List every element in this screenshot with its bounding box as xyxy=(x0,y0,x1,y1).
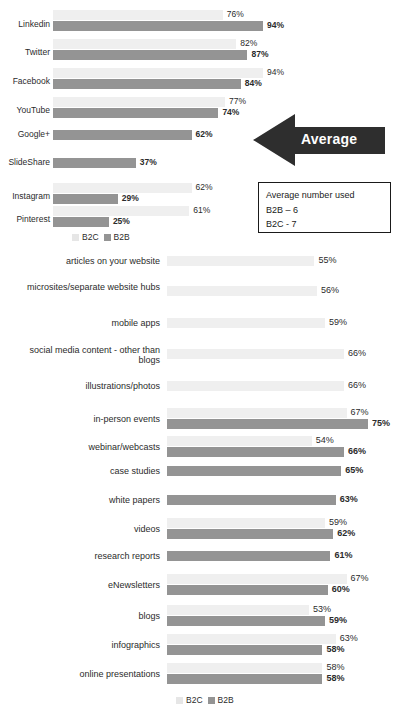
bar-b2c-facebook xyxy=(53,68,263,78)
bar-b2c-online-presentations xyxy=(167,663,322,673)
chart-legend: B2CB2B xyxy=(72,232,130,242)
bar-b2c-instagram xyxy=(53,183,192,193)
bar-b2b-webinar-webcasts xyxy=(167,447,344,457)
category-label-google: Google+ xyxy=(2,130,50,140)
legend-label-b2b: B2B xyxy=(218,695,234,705)
bar-b2b-in-person-events xyxy=(167,419,368,429)
value-b2c-articles-on-your-website: 55% xyxy=(318,255,336,265)
bar-b2b-research-reports xyxy=(167,551,330,561)
value-b2b-pinterest: 25% xyxy=(113,216,130,226)
value-b2c-online-presentations: 58% xyxy=(326,662,344,672)
value-b2b-videos: 62% xyxy=(337,528,355,538)
average-number-box: Average number used B2B – 6 B2C - 7 xyxy=(258,182,391,233)
value-b2c-blogs: 53% xyxy=(313,604,331,614)
bar-b2b-slideshare xyxy=(53,158,136,168)
bar-b2b-youtube xyxy=(53,108,218,118)
bar-b2b-enewsletters xyxy=(167,585,328,595)
value-b2b-enewsletters: 60% xyxy=(332,584,350,594)
legend-swatch-b2b-icon xyxy=(104,234,111,241)
category-label-illustrations-photos: illustrations/photos xyxy=(10,381,160,391)
legend-label-b2c: B2C xyxy=(186,695,203,705)
category-label-research-reports: research reports xyxy=(10,551,160,561)
category-label-infographics: infographics xyxy=(10,640,160,650)
legend-item-b2c: B2C xyxy=(176,695,203,705)
value-b2b-facebook: 84% xyxy=(245,78,262,88)
bar-b2c-videos xyxy=(167,518,325,528)
bar-b2c-blogs xyxy=(167,605,309,615)
value-b2b-twitter: 87% xyxy=(251,49,268,59)
category-label-facebook: Facebook xyxy=(2,77,50,87)
category-label-blogs: blogs xyxy=(10,611,160,621)
bar-b2c-twitter xyxy=(53,39,236,49)
bar-b2c-infographics xyxy=(167,634,336,644)
category-label-slideshare: SlideShare xyxy=(2,158,50,168)
category-label-linkedin: Linkedin xyxy=(2,20,50,30)
bar-b2c-enewsletters xyxy=(167,574,347,584)
category-label-social-media-content-other-than-blogs: social media content - other than blogs xyxy=(10,345,160,365)
value-b2c-youtube: 77% xyxy=(229,96,246,106)
legend-swatch-b2b-icon xyxy=(208,697,215,704)
value-b2c-pinterest: 61% xyxy=(193,205,210,215)
category-label-videos: videos xyxy=(10,524,160,534)
value-b2b-infographics: 58% xyxy=(326,644,344,654)
category-label-pinterest: Pinterest xyxy=(2,215,50,225)
category-label-youtube: YouTube xyxy=(2,106,50,116)
value-b2c-infographics: 63% xyxy=(340,633,358,643)
value-b2b-youtube: 74% xyxy=(222,107,239,117)
category-label-webinar-webcasts: webinar/webcasts xyxy=(10,442,160,452)
value-b2b-instagram: 29% xyxy=(122,193,139,203)
category-label-case-studies: case studies xyxy=(10,466,160,476)
value-b2c-twitter: 82% xyxy=(240,38,257,48)
value-b2c-social-media-content-other-than-blogs: 66% xyxy=(348,348,366,358)
value-b2c-videos: 59% xyxy=(329,517,347,527)
bar-b2c-illustrations-photos xyxy=(167,381,344,391)
legend-label-b2b: B2B xyxy=(114,232,130,242)
value-b2b-linkedin: 94% xyxy=(267,20,284,30)
bar-b2c-in-person-events xyxy=(167,408,347,418)
category-label-twitter: Twitter xyxy=(2,48,50,58)
legend-swatch-b2c-icon xyxy=(176,697,183,704)
value-b2c-webinar-webcasts: 54% xyxy=(316,435,334,445)
value-b2c-facebook: 94% xyxy=(267,67,284,77)
value-b2c-microsites-separate-website-hubs: 56% xyxy=(321,285,339,295)
average-box-b2c: B2C - 7 xyxy=(266,217,390,232)
bar-b2b-videos xyxy=(167,529,333,539)
value-b2b-google: 62% xyxy=(196,129,213,139)
category-label-microsites-separate-website-hubs: microsites/separate website hubs xyxy=(10,282,160,292)
legend-item-b2b: B2B xyxy=(104,232,130,242)
bar-b2c-articles-on-your-website xyxy=(167,256,314,266)
category-label-online-presentations: online presentations xyxy=(10,669,160,679)
value-b2b-in-person-events: 75% xyxy=(372,418,390,428)
value-b2c-linkedin: 76% xyxy=(227,9,244,19)
value-b2b-online-presentations: 58% xyxy=(326,673,344,683)
legend-item-b2b: B2B xyxy=(208,695,234,705)
bar-b2b-instagram xyxy=(53,194,118,204)
average-box-b2b: B2B – 6 xyxy=(266,203,390,218)
chart-legend: B2CB2B xyxy=(176,695,234,705)
bar-b2b-infographics xyxy=(167,645,322,655)
value-b2b-webinar-webcasts: 66% xyxy=(348,446,366,456)
value-b2c-in-person-events: 67% xyxy=(351,407,369,417)
bar-b2c-pinterest xyxy=(53,206,189,216)
average-arrow-label: Average xyxy=(301,131,381,147)
value-b2c-mobile-apps: 59% xyxy=(329,317,347,327)
value-b2c-instagram: 62% xyxy=(196,182,213,192)
bar-b2b-pinterest xyxy=(53,217,109,227)
bar-b2c-mobile-apps xyxy=(167,318,325,328)
bar-b2b-blogs xyxy=(167,616,325,626)
bar-b2b-twitter xyxy=(53,50,247,60)
category-label-in-person-events: in-person events xyxy=(10,414,160,424)
bar-b2b-online-presentations xyxy=(167,674,322,684)
average-arrow-callout: Average xyxy=(253,111,385,169)
value-b2c-enewsletters: 67% xyxy=(351,573,369,583)
value-b2c-illustrations-photos: 66% xyxy=(348,380,366,390)
bar-b2b-google xyxy=(53,130,192,140)
bar-b2b-linkedin xyxy=(53,21,263,31)
value-b2b-slideshare: 37% xyxy=(140,157,157,167)
category-label-mobile-apps: mobile apps xyxy=(10,318,160,328)
category-label-instagram: Instagram xyxy=(2,192,50,202)
bar-b2b-facebook xyxy=(53,79,241,89)
legend-swatch-b2c-icon xyxy=(72,234,79,241)
legend-item-b2c: B2C xyxy=(72,232,99,242)
value-b2b-research-reports: 61% xyxy=(334,550,352,560)
